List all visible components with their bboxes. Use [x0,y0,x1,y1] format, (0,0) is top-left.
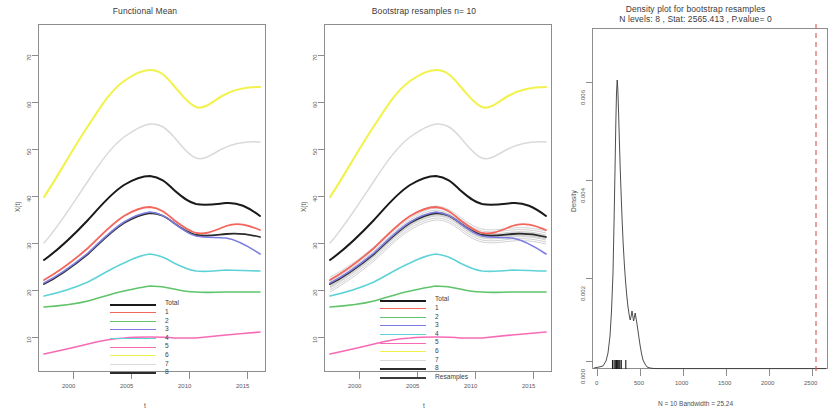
legend-swatch-8 [380,368,426,370]
legend-swatch-3 [380,325,426,326]
legend-swatch-2 [110,321,156,322]
series-6-line [330,70,546,197]
series-5-line [44,332,260,354]
legend-swatch-5 [380,343,426,344]
legend-swatch-7 [110,364,156,365]
panel1-title: Functional Mean [0,6,290,16]
series-3-line [44,212,260,283]
series-6-line [44,70,260,197]
panel3-y-axis-label: Density [570,190,577,212]
panel-functional-mean: Functional Mean 70 60 50 40 30 20 10 [0,0,290,419]
series-8-line [44,213,260,284]
legend-swatch-6 [380,351,426,352]
legend-swatch-8 [110,372,156,374]
legend-swatch-resamples [380,377,426,379]
legend-swatch-6 [110,355,156,356]
series-total-line [44,176,260,260]
legend-swatch-2 [380,317,426,318]
series-1-line [44,207,260,280]
legend-swatch-4 [110,338,156,339]
panel2-title: Bootstrap resamples n= 10 [288,6,560,16]
panel1-x-axis-label: t [0,402,290,409]
panel-bootstrap-resamples: Bootstrap resamples n= 10 70 60 50 40 30… [288,0,560,419]
panel3-x-ticks [592,369,828,378]
legend-swatch-total [380,300,426,302]
panel2-x-axis-label: t [288,402,560,409]
stat-vline [592,24,828,373]
panel1-y-axis-label: X(t) [14,202,21,212]
figure-root: Functional Mean 70 60 50 40 30 20 10 [0,0,833,419]
panel3-title-line2: N levels: 8 , Stat: 2565.413 , P.value= … [558,14,833,24]
legend-swatch-3 [110,329,156,330]
panel-density-plot: Density plot for bootstrap resamples N l… [558,0,833,419]
legend-swatch-1 [110,312,156,313]
panel2-y-axis-label: X(t) [300,202,307,212]
legend-swatch-total [110,304,156,306]
series-3-line [330,212,546,283]
panel3-x-axis-label: N = 10 Bandwidth = 25.24 [558,400,833,407]
legend-swatch-1 [380,308,426,309]
panel2-curves [324,24,552,372]
legend-swatch-7 [380,360,426,361]
series-8-line [330,213,546,284]
legend-swatch-4 [380,334,426,335]
legend-swatch-5 [110,347,156,348]
resample-curves [330,206,546,292]
series-4-line [44,254,260,296]
panel3-title-line1: Density plot for bootstrap resamples [558,4,833,14]
